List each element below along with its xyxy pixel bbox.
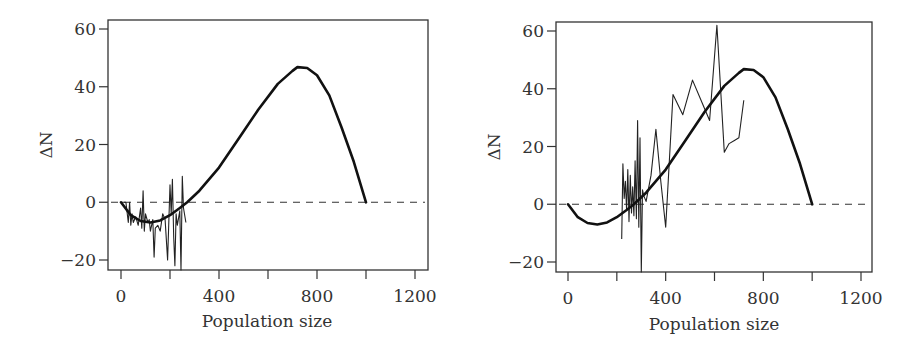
model-curve-line bbox=[568, 69, 812, 224]
x-axis-label: Population size bbox=[202, 311, 332, 331]
y-tick-label: 0 bbox=[85, 192, 96, 212]
y-axis-ticks: 6040200−20 bbox=[60, 19, 108, 270]
observed-series-line bbox=[622, 25, 744, 272]
y-tick-label: −20 bbox=[60, 250, 96, 270]
y-axis-label: ΔN bbox=[484, 133, 504, 160]
x-axis-ticks: 04008001200 bbox=[563, 272, 883, 308]
y-tick-label: 20 bbox=[74, 135, 96, 155]
y-tick-label: 20 bbox=[522, 137, 544, 157]
y-tick-label: 40 bbox=[522, 79, 544, 99]
y-tick-label: 40 bbox=[74, 77, 96, 97]
figure-canvas: 6040200−20 04008001200 ΔN Population siz… bbox=[0, 0, 910, 358]
x-tick-label: 800 bbox=[747, 288, 779, 308]
y-axis-ticks: 6040200−20 bbox=[508, 21, 556, 272]
y-tick-label: 60 bbox=[522, 21, 544, 41]
plot-frame bbox=[108, 20, 428, 270]
x-axis-label: Population size bbox=[649, 314, 779, 334]
y-tick-label: 0 bbox=[533, 194, 544, 214]
model-curve-line bbox=[121, 67, 366, 222]
y-tick-label: 60 bbox=[74, 19, 96, 39]
x-tick-label: 400 bbox=[649, 288, 681, 308]
x-tick-label: 400 bbox=[203, 286, 235, 306]
x-tick-label: 1200 bbox=[839, 288, 882, 308]
x-tick-label: 1200 bbox=[393, 286, 436, 306]
left-panel: 6040200−20 04008001200 ΔN Population siz… bbox=[36, 19, 437, 331]
x-axis-ticks: 04008001200 bbox=[116, 270, 437, 306]
y-tick-label: −20 bbox=[508, 252, 544, 272]
y-axis-label: ΔN bbox=[36, 131, 56, 158]
x-tick-label: 0 bbox=[563, 288, 574, 308]
x-tick-label: 0 bbox=[116, 286, 127, 306]
x-tick-label: 800 bbox=[301, 286, 333, 306]
right-panel: 6040200−20 04008001200 ΔN Population siz… bbox=[484, 21, 883, 334]
